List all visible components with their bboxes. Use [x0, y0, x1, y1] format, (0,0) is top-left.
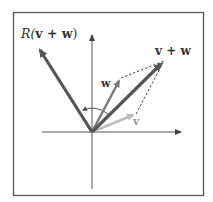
vector-v-plus-w	[92, 64, 161, 132]
label-rotated-sum-inner: v + w	[34, 26, 73, 41]
label-w: w	[100, 77, 111, 90]
vector-rotated-sum	[40, 50, 92, 132]
label-v: v	[132, 115, 140, 128]
label-rotated-sum: R(v + w)	[20, 26, 77, 41]
label-sum: v + w	[154, 44, 191, 58]
rotation-diagram: R(v + w) v + w w v	[0, 0, 213, 202]
vector-v	[92, 115, 133, 132]
parallelogram-edge-v-to-sum	[136, 61, 164, 114]
label-rotated-sum-close: )	[73, 26, 78, 41]
label-rotated-sum-R: R(	[20, 26, 36, 41]
